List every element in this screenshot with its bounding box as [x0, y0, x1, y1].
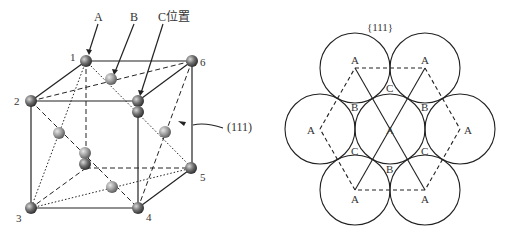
atoms: [25, 55, 198, 214]
label-plane-111: (111): [227, 120, 252, 134]
site-b: B: [386, 163, 393, 175]
site-a: A: [307, 124, 315, 136]
diagram-canvas: A B C位置 (111) 1 2 3 4 5 6 {111} A A A: [0, 0, 506, 236]
packing-title: {111}: [367, 21, 393, 33]
site-a: A: [351, 54, 359, 66]
label-a: A: [94, 10, 103, 24]
site-c: C: [351, 145, 358, 157]
site-b: B: [351, 101, 358, 113]
site-c: C: [386, 82, 393, 94]
site-a: A: [464, 124, 472, 136]
site-a: A: [421, 54, 429, 66]
site-a: A: [421, 193, 429, 205]
label-c-position: C位置: [158, 9, 190, 24]
fcc-cube: [31, 24, 223, 208]
site-c: C: [421, 145, 428, 157]
label-b: B: [130, 10, 138, 24]
corner-1: 1: [70, 51, 76, 63]
site-a: A: [351, 193, 359, 205]
site-a: A: [386, 124, 394, 136]
corner-4: 4: [146, 211, 152, 223]
corner-5: 5: [200, 171, 206, 183]
site-b: B: [421, 101, 428, 113]
corner-2: 2: [14, 95, 20, 107]
corner-6: 6: [200, 56, 206, 68]
corner-3: 3: [16, 212, 22, 224]
